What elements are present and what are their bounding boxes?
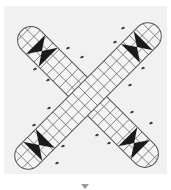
seed-mark-icon <box>80 56 84 59</box>
chevron-down-icon[interactable] <box>81 184 89 189</box>
seed-mark-icon <box>32 124 36 127</box>
seed-mark-icon <box>95 134 99 137</box>
seed-mark-icon <box>61 145 65 148</box>
seed-mark-icon <box>130 111 134 114</box>
seed-mark-icon <box>46 79 50 82</box>
seed-mark-icon <box>33 68 37 71</box>
seed-mark-icon <box>55 162 59 165</box>
seed-mark-icon <box>66 47 70 50</box>
seed-mark-icon <box>113 41 117 44</box>
seed-mark-icon <box>47 107 51 110</box>
seed-mark-icon <box>107 142 111 145</box>
seed-mark-icon <box>149 122 153 125</box>
seed-mark-icon <box>141 67 145 70</box>
seed-mark-icon <box>128 84 132 87</box>
seed-mark-icon <box>121 27 125 30</box>
game-board[interactable] <box>0 0 171 190</box>
